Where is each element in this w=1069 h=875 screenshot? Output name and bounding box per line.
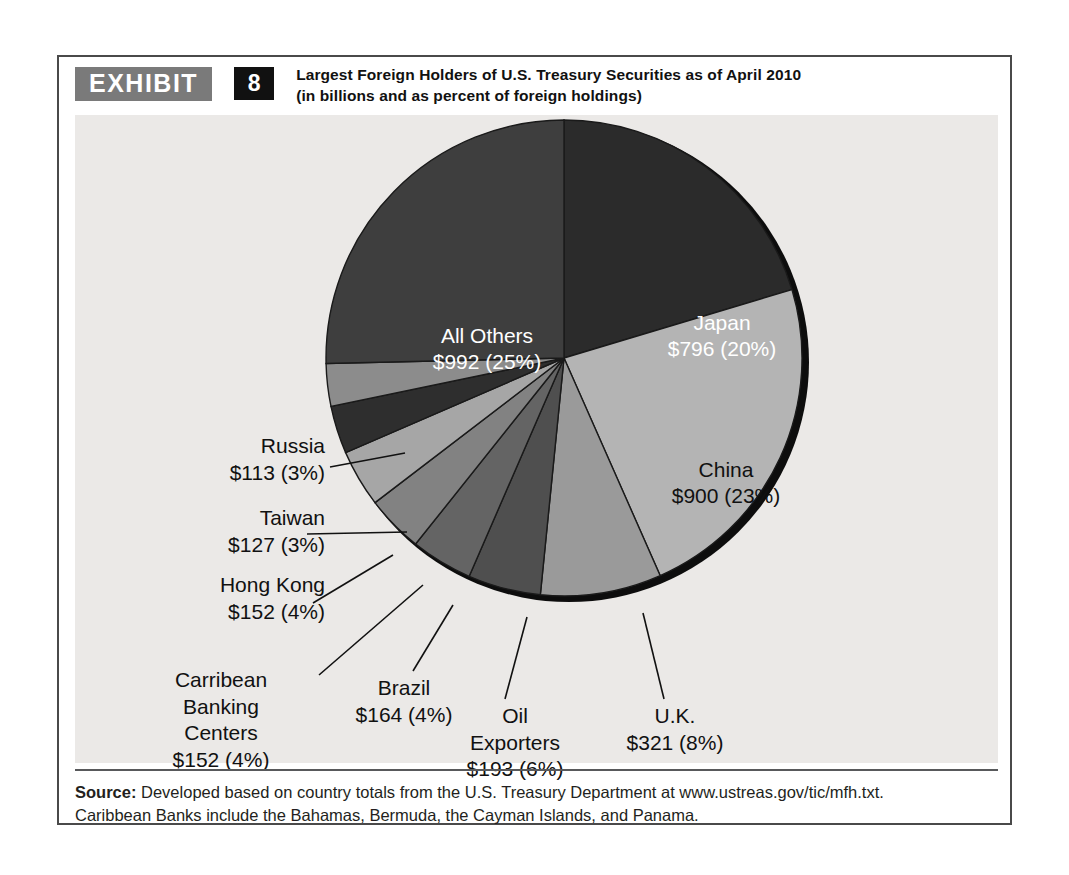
- callout-label-uk: U.K. $321 (8%): [595, 703, 755, 756]
- callout-label-caribbean-name-3: Centers: [115, 720, 327, 747]
- callout-label-oil-exporters-name-1: Oil: [435, 703, 595, 730]
- callout-label-taiwan-name: Taiwan: [125, 505, 325, 532]
- exhibit-header: EXHIBIT 8 Largest Foreign Holders of U.S…: [59, 57, 1010, 115]
- exhibit-title-block: Largest Foreign Holders of U.S. Treasury…: [296, 65, 801, 106]
- pie-chart: Japan $796 (20%) China $900 (23%) All Ot…: [75, 115, 998, 763]
- source-text-1: Developed based on country totals from t…: [136, 783, 883, 801]
- callout-label-uk-name: U.K.: [595, 703, 755, 730]
- exhibit-badge-label: EXHIBIT: [75, 67, 212, 101]
- callout-label-hong-kong: Hong Kong $152 (4%): [115, 572, 325, 625]
- callout-label-hong-kong-value: $152 (4%): [115, 599, 325, 626]
- source-footer: Source: Developed based on country total…: [75, 769, 998, 828]
- exhibit-title-line-2: (in billions and as percent of foreign h…: [296, 86, 801, 107]
- leader-line-caribbean: [319, 585, 423, 675]
- exhibit-frame: EXHIBIT 8 Largest Foreign Holders of U.S…: [57, 55, 1012, 825]
- source-line-2: Caribbean Banks include the Bahamas, Ber…: [75, 804, 998, 827]
- callout-label-russia: Russia $113 (3%): [125, 433, 325, 486]
- callout-label-brazil-name: Brazil: [329, 675, 479, 702]
- leader-line-hongkong: [313, 555, 393, 603]
- exhibit-number-badge: 8: [234, 67, 274, 100]
- callout-label-caribbean-name-2: Banking: [115, 694, 327, 721]
- leader-line-oil: [505, 617, 527, 699]
- callout-label-russia-value: $113 (3%): [125, 460, 325, 487]
- callout-label-uk-value: $321 (8%): [595, 730, 755, 757]
- source-label: Source:: [75, 783, 136, 801]
- callout-label-taiwan-value: $127 (3%): [125, 532, 325, 559]
- callout-label-caribbean: Carribean Banking Centers $152 (4%): [115, 667, 327, 774]
- pie-slice-all-others: [326, 120, 564, 364]
- leader-line-brazil: [413, 605, 453, 671]
- pie-slices-group: [326, 120, 802, 596]
- callout-label-hong-kong-name: Hong Kong: [115, 572, 325, 599]
- callout-label-taiwan: Taiwan $127 (3%): [125, 505, 325, 558]
- callout-label-caribbean-name-1: Carribean: [115, 667, 327, 694]
- callout-label-oil-exporters-name-2: Exporters: [435, 730, 595, 757]
- callout-label-russia-name: Russia: [125, 433, 325, 460]
- source-line-1: Source: Developed based on country total…: [75, 781, 998, 804]
- leader-line-uk: [643, 613, 664, 699]
- exhibit-title-line-1: Largest Foreign Holders of U.S. Treasury…: [296, 65, 801, 86]
- chart-plot-panel: Japan $796 (20%) China $900 (23%) All Ot…: [75, 115, 998, 763]
